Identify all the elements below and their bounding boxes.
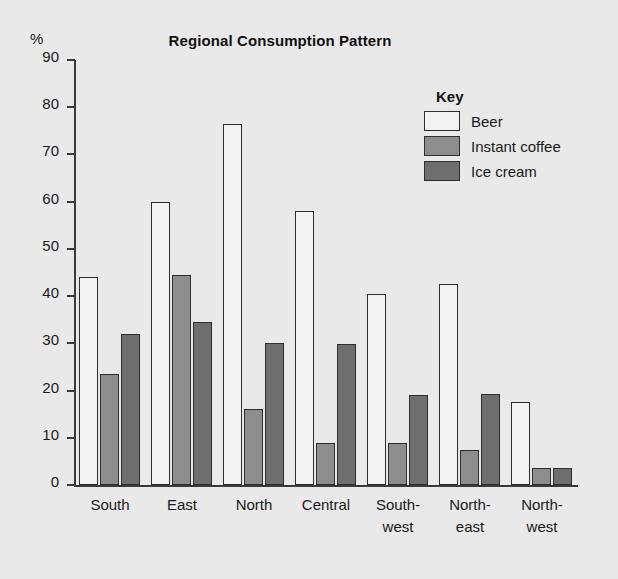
y-tick-10: 10 [67, 437, 75, 439]
bar [460, 450, 479, 485]
y-tick-60: 60 [67, 201, 75, 203]
bar-group [367, 60, 428, 485]
legend-title: Key [436, 88, 604, 105]
bar [193, 322, 212, 485]
y-tick-label: 20 [42, 379, 59, 396]
y-tick-70: 70 [67, 153, 75, 155]
legend-label: Beer [471, 113, 503, 130]
bar [316, 443, 335, 486]
y-tick-0: 0 [67, 484, 75, 486]
bar-group [151, 60, 212, 485]
legend-item: Instant coffee [424, 136, 604, 156]
legend-item: Ice cream [424, 161, 604, 181]
legend-items: BeerInstant coffeeIce cream [424, 111, 604, 181]
bar [265, 343, 284, 485]
y-tick-label: 60 [42, 190, 59, 207]
legend-label: Ice cream [471, 163, 537, 180]
legend: Key BeerInstant coffeeIce cream [424, 88, 604, 186]
chart-container: Regional Consumption Pattern % 908070605… [0, 0, 618, 579]
chart-title: Regional Consumption Pattern [130, 32, 430, 49]
bar [100, 374, 119, 485]
bar [223, 124, 242, 485]
y-tick-50: 50 [67, 248, 75, 250]
x-axis-label: North-west [492, 494, 592, 538]
bar [244, 409, 263, 485]
legend-swatch [424, 161, 460, 181]
legend-label: Instant coffee [471, 138, 561, 155]
bar-group [295, 60, 356, 485]
x-axis-line [74, 485, 578, 487]
y-tick-40: 40 [67, 295, 75, 297]
bar [409, 395, 428, 485]
bar [151, 202, 170, 485]
bar [79, 277, 98, 485]
bar [295, 211, 314, 485]
legend-swatch [424, 136, 460, 156]
bar [367, 294, 386, 485]
bar [553, 468, 572, 485]
y-tick-label: 10 [42, 426, 59, 443]
y-axis-unit-label: % [30, 30, 43, 47]
bar [388, 443, 407, 485]
bar [481, 394, 500, 485]
legend-item: Beer [424, 111, 604, 131]
y-tick-label: 90 [42, 48, 59, 65]
bar [337, 344, 356, 485]
bar [121, 334, 140, 485]
bar [439, 284, 458, 485]
y-tick-label: 30 [42, 331, 59, 348]
bar [511, 402, 530, 485]
bar-group [79, 60, 140, 485]
y-tick-20: 20 [67, 390, 75, 392]
y-tick-label: 70 [42, 142, 59, 159]
y-tick-90: 90 [67, 59, 75, 61]
y-axis-line [74, 60, 76, 485]
y-tick-80: 80 [67, 106, 75, 108]
y-tick-label: 50 [42, 237, 59, 254]
y-tick-30: 30 [67, 342, 75, 344]
bar [172, 275, 191, 485]
legend-swatch [424, 111, 460, 131]
y-tick-label: 0 [51, 473, 59, 490]
bar [532, 468, 551, 485]
y-tick-label: 40 [42, 284, 59, 301]
bar-group [223, 60, 284, 485]
y-tick-label: 80 [42, 95, 59, 112]
